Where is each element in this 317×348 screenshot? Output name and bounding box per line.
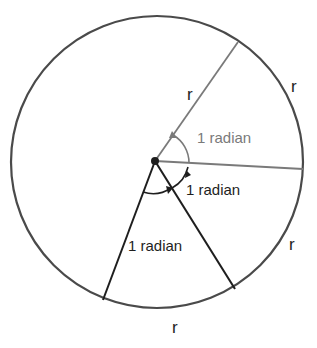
radian-diagram: r r r r 1 radian 1 radian 1 radian [0, 0, 317, 348]
label-arc-upper-right: r [291, 77, 297, 96]
radius-horizontal-gray [155, 161, 303, 169]
arrow-middle-icon [185, 170, 191, 178]
center-point [151, 157, 159, 165]
label-angle-lower: 1 radian [128, 237, 182, 254]
radius-lower-left-black [103, 161, 155, 300]
label-angle-middle: 1 radian [186, 181, 240, 198]
label-arc-lower-right: r [289, 235, 295, 254]
label-angle-upper: 1 radian [197, 129, 251, 146]
label-arc-bottom: r [172, 318, 178, 337]
label-radius-upper: r [187, 85, 193, 104]
angle-arc-upper [173, 135, 189, 163]
